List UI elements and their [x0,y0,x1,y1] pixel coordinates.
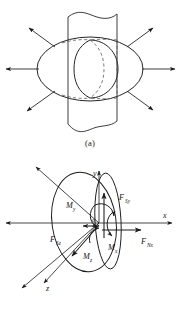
label-FNx: F Nx [140,237,154,248]
label-FSz: F Sz [49,235,62,246]
label-FSy-base: F [118,193,125,202]
label-FSy-sub: Sy [125,198,131,204]
label-FSz-base: F [49,235,56,244]
label-Mz: M z [82,252,93,263]
arrow-lower-right [127,91,153,110]
axis-z-upper [36,167,99,223]
coordinate-axes [6,167,172,288]
label-FNx-base: F [140,237,147,246]
sphere-bulge [74,40,118,98]
caption-panel-a: (a) [0,138,180,148]
panel-b-diagram: y x z o F Sy F Nx F Sz M y M x [0,155,180,311]
label-FNx-sub: Nx [146,242,154,248]
label-Mx-sub: x [114,248,118,254]
label-FSy: F Sy [118,193,131,204]
panel-b-svg: y x z o F Sy F Nx F Sz M y M x [0,155,180,311]
label-Mx: M x [107,243,118,254]
panel-a-svg [0,0,180,155]
arrow-upper-left [29,28,55,47]
hidden-edges [62,39,117,99]
figure-root: (a) [0,0,180,311]
axis-label-x: x [162,211,167,220]
label-My: M y [65,201,76,212]
force-arrows [72,193,141,256]
axis-label-z: z [45,284,50,293]
axis-z [44,223,99,283]
label-My-sub: y [72,206,76,212]
moment-Mx-arc [107,213,112,236]
label-FSz-sub: Sz [56,240,62,246]
label-Mz-sub: z [89,257,93,263]
axis-label-y: y [92,169,97,178]
axis-label-origin: o [92,216,95,223]
panel-a-diagram: (a) [0,0,180,155]
arrow-lower-left [27,91,55,111]
arrow-upper-right [127,28,153,47]
channel-band [68,12,117,131]
